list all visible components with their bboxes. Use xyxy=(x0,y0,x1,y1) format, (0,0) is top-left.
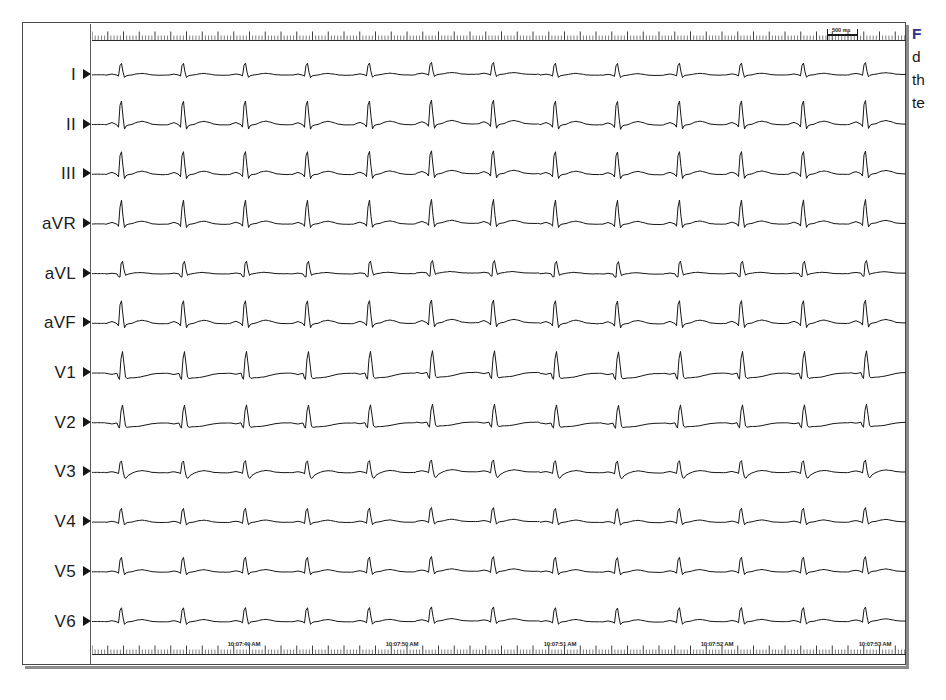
ecg-trace-v3 xyxy=(92,460,906,479)
ecg-frame: IIIIIIaVRaVLaVFV1V2V3V4V5V6 500 ms 10:07… xyxy=(22,22,906,665)
figure-caption-text: Fdthte xyxy=(912,22,946,114)
lead-label-v6: V6 xyxy=(55,612,76,632)
lead-label-avf: aVF xyxy=(44,313,76,333)
figure-page: IIIIIIaVRaVLaVFV1V2V3V4V5V6 500 ms 10:07… xyxy=(0,0,946,700)
lead-baseline-marker-avr xyxy=(83,218,91,228)
lead-baseline-marker-v6 xyxy=(83,616,91,626)
ecg-waveform-svg xyxy=(92,24,906,665)
lead-baseline-marker-v5 xyxy=(83,566,91,576)
bottom-ruler-ticks xyxy=(92,641,906,655)
lead-label-v4: V4 xyxy=(55,512,76,532)
lead-baseline-marker-v3 xyxy=(83,466,91,476)
lead-label-avr: aVR xyxy=(42,214,76,234)
caption-lead-word: F xyxy=(912,25,921,42)
lead-baseline-marker-v1 xyxy=(83,367,91,377)
lead-baseline-marker-avl xyxy=(83,268,91,278)
ecg-trace-iii xyxy=(92,151,906,179)
caption-line: te xyxy=(912,94,925,111)
caption-line: d xyxy=(912,48,921,65)
lead-label-i: I xyxy=(71,65,76,85)
ecg-trace-v2 xyxy=(92,404,906,428)
timestamp-label: 10:07:49 AM xyxy=(228,641,261,647)
caption-line: th xyxy=(912,71,925,88)
lead-label-iii: III xyxy=(61,164,76,184)
lead-baseline-marker-iii xyxy=(83,168,91,178)
ecg-trace-v5 xyxy=(92,557,906,576)
lead-label-v5: V5 xyxy=(55,562,76,582)
figure-caption: Fdthte xyxy=(912,22,946,162)
ecg-trace-avf xyxy=(92,300,906,328)
lead-label-column: IIIIIIaVRaVLaVFV1V2V3V4V5V6 xyxy=(23,24,91,665)
bottom-time-ruler: 10:07:49 AM10:07:50 AM10:07:51 AM10:07:5… xyxy=(92,641,906,663)
lead-baseline-marker-avf xyxy=(83,317,91,327)
ecg-figure: IIIIIIaVRaVLaVFV1V2V3V4V5V6 500 ms 10:07… xyxy=(22,22,906,670)
ecg-trace-v4 xyxy=(92,507,906,525)
lead-label-v3: V3 xyxy=(55,462,76,482)
ecg-trace-avl xyxy=(92,260,906,277)
timestamp-label: 10:07:51 AM xyxy=(544,641,577,647)
lead-baseline-marker-ii xyxy=(83,119,91,129)
ecg-trace-ii xyxy=(92,100,906,129)
ecg-trace-v1 xyxy=(92,351,906,380)
lead-label-ii: II xyxy=(66,115,76,135)
ecg-trace-i xyxy=(92,62,906,77)
lead-label-avl: aVL xyxy=(45,264,76,284)
lead-label-v1: V1 xyxy=(55,363,76,383)
timestamp-label: 10:07:52 AM xyxy=(701,641,734,647)
lead-label-v2: V2 xyxy=(55,413,76,433)
lead-baseline-marker-i xyxy=(83,69,91,79)
ecg-trace-v6 xyxy=(92,607,906,625)
ecg-trace-area xyxy=(92,24,906,665)
frame-shadow-bottom xyxy=(25,666,909,669)
lead-baseline-marker-v4 xyxy=(83,516,91,526)
lead-baseline-marker-v2 xyxy=(83,417,91,427)
ecg-trace-avr xyxy=(92,199,906,228)
timestamp-label: 10:07:53 AM xyxy=(859,641,892,647)
timestamp-label: 10:07:50 AM xyxy=(386,641,419,647)
frame-shadow-right xyxy=(906,25,909,669)
